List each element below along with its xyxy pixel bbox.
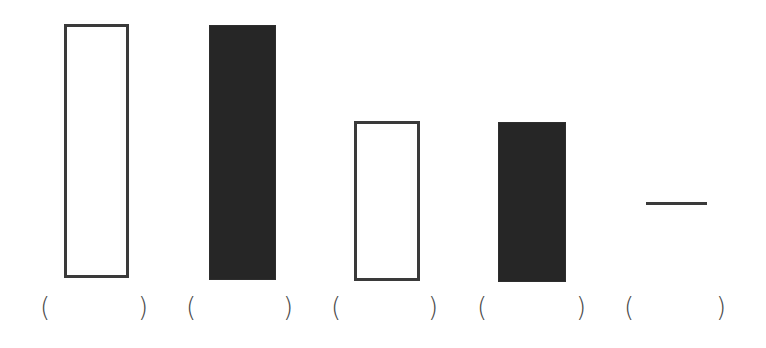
answer-2-open-paren: ( — [186, 294, 196, 320]
figure-3-outline-short-rectangle — [354, 121, 420, 281]
answer-2-close-paren: ) — [283, 294, 293, 320]
figure-4-filled-short-rectangle — [498, 122, 566, 282]
figure-5-horizontal-line — [646, 202, 707, 205]
answer-4-close-paren: ) — [576, 294, 586, 320]
answer-5-close-paren: ) — [716, 294, 726, 320]
answer-4-open-paren: ( — [477, 294, 487, 320]
figure-2-filled-tall-rectangle — [209, 25, 276, 280]
answer-5-open-paren: ( — [624, 294, 634, 320]
answer-1-close-paren: ) — [138, 294, 148, 320]
answer-1-open-paren: ( — [40, 294, 50, 320]
answer-3-close-paren: ) — [428, 294, 438, 320]
answer-3-open-paren: ( — [331, 294, 341, 320]
figure-1-outline-tall-rectangle — [64, 24, 129, 278]
